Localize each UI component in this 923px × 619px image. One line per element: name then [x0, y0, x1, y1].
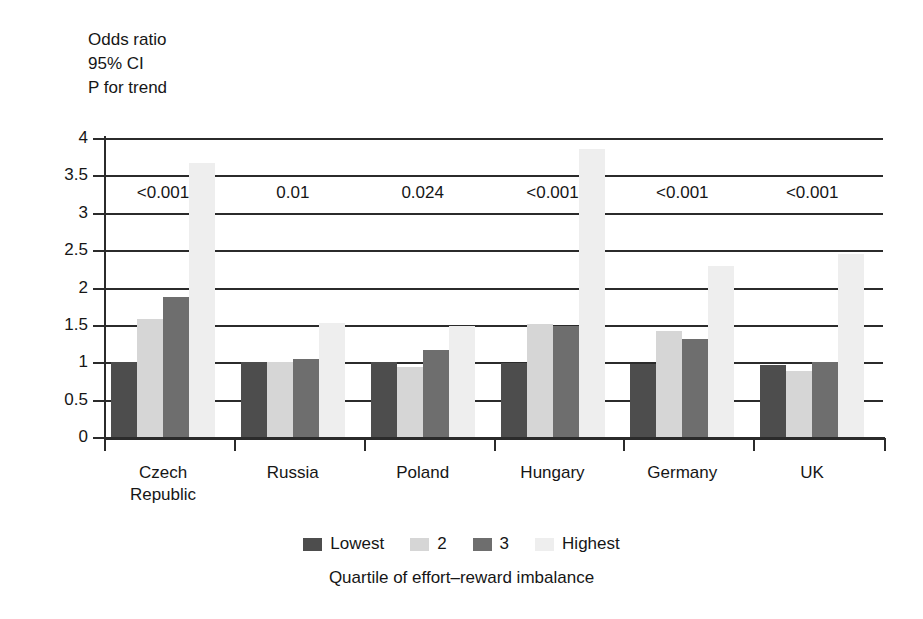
x-axis-category-label: Russia [267, 462, 319, 484]
x-axis-category-label: CzechRepublic [130, 462, 196, 506]
x-axis-category-label: Hungary [520, 462, 584, 484]
x-axis-category-label-line: Czech [130, 462, 196, 484]
bar [708, 266, 734, 437]
x-axis-separator-tick [623, 438, 625, 451]
y-axis-tick [93, 437, 104, 439]
bar [760, 365, 786, 437]
x-axis-title: Quartile of effort–reward imbalance [0, 568, 923, 588]
y-axis-tick-label: 2 [79, 278, 88, 298]
y-axis-tick-label: 0.5 [64, 390, 88, 410]
bar [371, 362, 397, 437]
bar [137, 319, 163, 437]
legend-item: 3 [473, 534, 509, 554]
y-axis-tick [93, 250, 104, 252]
legend: Lowest23Highest [0, 534, 923, 554]
y-axis-tick-label: 0 [79, 427, 88, 447]
bar [397, 367, 423, 437]
y-axis-tick [93, 138, 104, 140]
bar [527, 324, 553, 437]
bar-chart: 00.511.522.533.54 <0.0010.010.024<0.001<… [0, 0, 923, 619]
p-value-annotation: <0.001 [526, 183, 578, 203]
bar [449, 326, 475, 437]
bar [267, 362, 293, 437]
p-value-annotation: 0.01 [276, 183, 309, 203]
x-axis-separator-tick [494, 438, 496, 451]
bar [630, 364, 656, 437]
y-axis-tick [93, 175, 104, 177]
p-value-annotation: <0.001 [786, 183, 838, 203]
y-axis-tick-label: 1.5 [64, 315, 88, 335]
y-axis-tick [93, 325, 104, 327]
y-axis-tick-label: 3.5 [64, 165, 88, 185]
x-axis-category-label-line: Hungary [520, 462, 584, 484]
x-axis-category-label: UK [800, 462, 824, 484]
legend-item: Highest [535, 534, 620, 554]
x-axis-separator-tick [234, 438, 236, 451]
y-axis-tick [93, 362, 104, 364]
legend-spacer [447, 544, 473, 545]
x-axis-category-label-line: Poland [396, 462, 449, 484]
bar [293, 359, 319, 437]
legend-swatch [535, 538, 554, 551]
x-axis-category-label-line: UK [800, 462, 824, 484]
bar [319, 323, 345, 437]
legend-label: 2 [437, 534, 446, 554]
bar [423, 350, 449, 437]
legend-label: Lowest [330, 534, 384, 554]
x-axis-category-label: Germany [647, 462, 717, 484]
legend-label: 3 [500, 534, 509, 554]
x-axis-separator-tick [753, 438, 755, 451]
legend-swatch [303, 538, 322, 551]
bar [682, 339, 708, 437]
p-value-annotation: <0.001 [137, 183, 189, 203]
x-axis-separator-tick [104, 438, 106, 451]
y-axis-tick-label: 1 [79, 352, 88, 372]
legend-swatch [473, 538, 492, 551]
bar [501, 363, 527, 437]
p-value-annotation: <0.001 [656, 183, 708, 203]
y-axis-tick-label: 3 [79, 203, 88, 223]
legend-spacer [384, 544, 410, 545]
bar [812, 362, 838, 437]
bar [786, 371, 812, 437]
plot-region: <0.0010.010.024<0.001<0.001<0.001 [104, 138, 883, 437]
bar [189, 163, 215, 437]
bar [163, 297, 189, 437]
p-value-annotation: 0.024 [401, 183, 444, 203]
bar [579, 149, 605, 437]
x-axis-category-label-line: Republic [130, 484, 196, 506]
y-axis-tick [93, 400, 104, 402]
y-axis-tick-label: 4 [79, 128, 88, 148]
legend-swatch [410, 538, 429, 551]
x-axis-separator-tick [364, 438, 366, 451]
y-axis-tick [93, 213, 104, 215]
bar [553, 326, 579, 437]
bar [838, 254, 864, 437]
y-axis-tick [93, 288, 104, 290]
y-axis-tick-label: 2.5 [64, 240, 88, 260]
y-axis-tick-labels: 00.511.522.533.54 [40, 138, 88, 437]
legend-spacer [509, 544, 535, 545]
x-axis-separator-tick [884, 438, 886, 451]
x-axis-category-label-line: Russia [267, 462, 319, 484]
legend-item: 2 [410, 534, 446, 554]
legend-item: Lowest [303, 534, 384, 554]
bar [111, 362, 137, 437]
bar [241, 362, 267, 437]
legend-label: Highest [562, 534, 620, 554]
x-axis-category-label-line: Germany [647, 462, 717, 484]
bar [656, 331, 682, 437]
x-axis-category-label: Poland [396, 462, 449, 484]
